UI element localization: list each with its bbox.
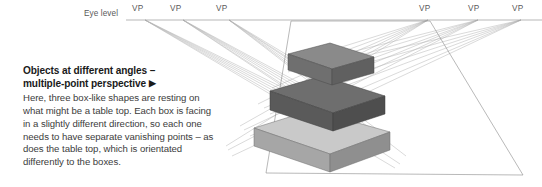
caption-heading-line1: Objects at different angles –: [23, 65, 155, 76]
eye-level-label: Eye level: [84, 9, 118, 18]
vp-label-3: VP: [216, 4, 227, 13]
figure-page: Eye level VP VP VP VP VP VP Objects at d…: [0, 0, 542, 187]
vp-label-5: VP: [468, 4, 479, 13]
caption-body: Here, three box-like shapes are resting …: [23, 92, 219, 168]
vp-label-1: VP: [132, 4, 143, 13]
caption-heading: Objects at different angles – multiple-p…: [23, 64, 219, 90]
vp-label-4: VP: [419, 4, 430, 13]
caption-block: Objects at different angles – multiple-p…: [23, 64, 219, 169]
triangle-right-icon: ▶: [149, 78, 156, 88]
caption-heading-line2: multiple-point perspective: [23, 78, 146, 89]
vp-label-2: VP: [170, 4, 181, 13]
vp-label-6: VP: [512, 4, 523, 13]
